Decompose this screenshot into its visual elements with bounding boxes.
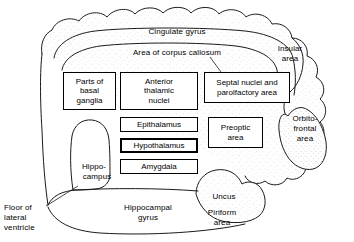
box-label-line: Septal nuclei and [216,78,277,88]
label-hippocampus-line1: Hippo- [70,162,118,172]
label-cingulate-gyrus: Cingulate gyrus [124,27,230,37]
box-label-line: Parts of [76,77,104,87]
label-hippocampus-line2: campus [72,172,122,182]
cortex-left-edge [41,54,49,205]
box-label-line: Hypothalamus [133,141,184,151]
label-insular-area-line1: Insular [268,44,312,54]
label-insular-area-line2: area [268,54,312,64]
label-uncus: Uncus [200,192,248,202]
box-label-line: basal [76,86,104,96]
leader-floor-of-lateral-ventricle [46,186,78,206]
label-hippocampal-gyrus-line2: gyrus [108,213,188,223]
label-orbito-frontal-line2: frontal [283,124,327,134]
box-parts-of-basal-ganglia: Parts ofbasalganglia [63,72,116,110]
box-amygdala: Amygdala [120,159,198,174]
box-label-line: Anterior [144,77,174,87]
label-floor-of-lateral-ventricle-line1: Floor of [4,203,50,213]
label-hippocampal-gyrus-line1: Hippocampal [108,203,188,213]
label-piriform-area-line2: area [192,218,252,228]
label-piriform-area-line1: Piriform [192,208,252,218]
box-hypothalamus: Hypothalamus [120,138,198,153]
box-preoptic-area: Preopticarea [208,117,263,148]
box-epithalamus: Epithalamus [120,117,198,132]
box-label-line: parolfactory area [216,88,277,98]
box-septal-nuclei-and-parolfactory-area: Septal nuclei andparolfactory area [204,72,290,103]
limbic-system-diagram: Cingulate gyrus Area of corpus callosum … [0,0,354,242]
label-orbito-frontal-line3: area [283,134,327,144]
label-floor-of-lateral-ventricle-line3: ventricle [4,223,56,233]
box-label-line: thalamic [144,86,174,96]
box-label-line: ganglia [76,96,104,106]
box-label-line: area [221,133,250,143]
label-area-of-corpus-callosum: Area of corpus callosum [97,48,257,58]
label-floor-of-lateral-ventricle-line2: lateral [4,213,50,223]
box-label-line: Amygdala [141,162,177,172]
box-label-line: Epithalamus [137,120,181,130]
box-label-line: nuclei [144,96,174,106]
box-anterior-thalamic-nuclei: Anteriorthalamicnuclei [120,72,198,110]
label-orbito-frontal-line1: Orbito- [283,114,327,124]
box-label-line: Preoptic [221,123,250,133]
